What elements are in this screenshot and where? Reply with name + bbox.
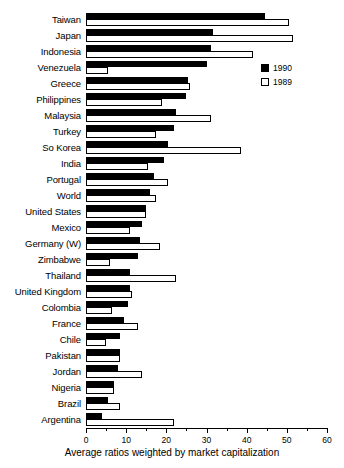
chart-row: Pakistan — [86, 348, 327, 364]
legend-item: 1990 — [261, 62, 292, 74]
category-label: India — [0, 156, 81, 172]
bar-1989 — [86, 211, 146, 218]
x-axis: 0102030405060 — [86, 428, 327, 429]
bar-1989 — [86, 147, 241, 154]
chart-row: Malaysia — [86, 108, 327, 124]
bar-1989 — [86, 179, 168, 186]
chart-row: Chile — [86, 332, 327, 348]
category-label: United States — [0, 204, 81, 220]
x-axis-minor-tick — [146, 428, 147, 431]
chart-row: Turkey — [86, 124, 327, 140]
category-label: Nigeria — [0, 380, 81, 396]
bar-1989 — [86, 19, 289, 26]
bar-1989 — [86, 339, 106, 346]
category-label: Malaysia — [0, 108, 81, 124]
x-axis-tick-label: 60 — [322, 435, 331, 445]
bar-1989 — [86, 403, 120, 410]
category-label: Chile — [0, 332, 81, 348]
category-label: Mexico — [0, 220, 81, 236]
x-axis-tick — [86, 428, 87, 433]
bar-1989 — [86, 355, 120, 362]
x-axis-minor-tick — [307, 428, 308, 431]
x-axis-minor-tick — [186, 428, 187, 431]
bar-1989 — [86, 243, 160, 250]
bar-1989 — [86, 307, 112, 314]
legend-label: 1989 — [273, 77, 292, 87]
bar-1989 — [86, 163, 148, 170]
chart-row: Germany (W) — [86, 236, 327, 252]
chart-row: Colombia — [86, 300, 327, 316]
x-axis-tick — [166, 428, 167, 433]
bar-1989 — [86, 35, 293, 42]
category-label: Philippines — [0, 92, 81, 108]
category-label: Indonesia — [0, 44, 81, 60]
bar-1989 — [86, 419, 174, 426]
bar-1989 — [86, 67, 108, 74]
chart-row: Japan — [86, 28, 327, 44]
chart-row: So Korea — [86, 140, 327, 156]
x-axis-minor-tick — [106, 428, 107, 431]
x-axis-tick — [126, 428, 127, 433]
x-axis-tick-label: 30 — [202, 435, 211, 445]
legend-swatch-1989 — [261, 78, 269, 86]
chart-row: Philippines — [86, 92, 327, 108]
category-label: United Kingdom — [0, 284, 81, 300]
category-label: Greece — [0, 76, 81, 92]
chart-row: Nigeria — [86, 380, 327, 396]
bar-1989 — [86, 131, 156, 138]
category-label: Taiwan — [0, 12, 81, 28]
chart-row: Zimbabwe — [86, 252, 327, 268]
chart-row: France — [86, 316, 327, 332]
legend-label: 1990 — [273, 63, 292, 73]
x-axis-title: Average ratios weighted by market capita… — [0, 447, 344, 458]
x-axis-tick — [207, 428, 208, 433]
category-label: Japan — [0, 28, 81, 44]
bar-chart: TaiwanJapanIndonesiaVenezuelaGreecePhili… — [0, 0, 344, 468]
bar-1989 — [86, 51, 253, 58]
chart-legend: 19901989 — [261, 62, 292, 90]
bar-1989 — [86, 227, 130, 234]
chart-row: India — [86, 156, 327, 172]
category-label: Venezuela — [0, 60, 81, 76]
chart-row: Indonesia — [86, 44, 327, 60]
category-label: Jordan — [0, 364, 81, 380]
x-axis-minor-tick — [267, 428, 268, 431]
category-label: World — [0, 188, 81, 204]
x-axis-tick-label: 10 — [121, 435, 130, 445]
bar-1989 — [86, 115, 211, 122]
x-axis-minor-tick — [227, 428, 228, 431]
category-label: Argentina — [0, 412, 81, 428]
x-axis-tick-label: 40 — [242, 435, 251, 445]
x-axis-tick — [247, 428, 248, 433]
category-label: Thailand — [0, 268, 81, 284]
chart-row: Thailand — [86, 268, 327, 284]
chart-row: Argentina — [86, 412, 327, 428]
x-axis-tick — [287, 428, 288, 433]
bar-1989 — [86, 259, 110, 266]
chart-row: United States — [86, 204, 327, 220]
chart-row: Taiwan — [86, 12, 327, 28]
category-label: Brazil — [0, 396, 81, 412]
category-label: Pakistan — [0, 348, 81, 364]
chart-row: Portugal — [86, 172, 327, 188]
legend-item: 1989 — [261, 76, 292, 88]
chart-row: Brazil — [86, 396, 327, 412]
bar-1989 — [86, 195, 156, 202]
bar-1989 — [86, 83, 190, 90]
x-axis-tick-label: 50 — [282, 435, 291, 445]
x-axis-tick-label: 20 — [162, 435, 171, 445]
bar-1989 — [86, 99, 162, 106]
bar-1989 — [86, 371, 142, 378]
chart-row: World — [86, 188, 327, 204]
category-label: So Korea — [0, 140, 81, 156]
x-axis-tick — [327, 428, 328, 433]
category-label: Turkey — [0, 124, 81, 140]
chart-row: Mexico — [86, 220, 327, 236]
category-label: Zimbabwe — [0, 252, 81, 268]
bar-1989 — [86, 291, 132, 298]
chart-row: United Kingdom — [86, 284, 327, 300]
category-label: Germany (W) — [0, 236, 81, 252]
bar-1989 — [86, 275, 176, 282]
category-label: Colombia — [0, 300, 81, 316]
category-label: France — [0, 316, 81, 332]
